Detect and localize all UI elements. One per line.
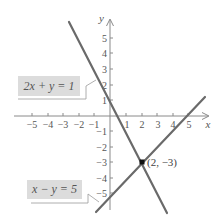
y-tick: 4 — [102, 48, 107, 59]
y-tick: 5 — [102, 33, 107, 44]
y-axis — [107, 19, 114, 210]
x-tick: −5 — [27, 119, 38, 130]
equation-label-2x-plus-y: 2x + y = 1 — [18, 76, 80, 96]
equation-label-x-minus-y: x − y = 5 — [27, 180, 82, 199]
x-tick: 3 — [156, 119, 161, 130]
x-axis-label: x — [205, 118, 211, 130]
x-tick: 1 — [125, 119, 130, 130]
line-2x-plus-y-eq-1 — [69, 22, 167, 213]
x-tick: −3 — [58, 119, 69, 130]
y-tick: −4 — [96, 173, 107, 184]
graph-figure: −5 −4 −3 −2 −1 1 2 3 4 5 x 1 2 3 4 5 −1 … — [0, 0, 223, 218]
y-tick: 3 — [102, 64, 107, 75]
y-tick: −1 — [96, 126, 107, 137]
x-tick: 2 — [140, 119, 145, 130]
y-tick: −5 — [96, 188, 107, 199]
x-tick: −2 — [74, 119, 85, 130]
x-tick: 5 — [187, 119, 192, 130]
y-axis-label: y — [98, 12, 104, 24]
intersection-label: (2, −3) — [147, 156, 177, 169]
x-tick: −4 — [43, 119, 54, 130]
line-x-minus-y-eq-5 — [96, 97, 205, 212]
intersection-point — [140, 160, 145, 165]
y-tick: −3 — [96, 157, 107, 168]
y-tick: −2 — [96, 142, 107, 153]
y-tick-labels: 1 2 3 4 5 −1 −2 −3 −4 −5 y — [96, 12, 107, 199]
